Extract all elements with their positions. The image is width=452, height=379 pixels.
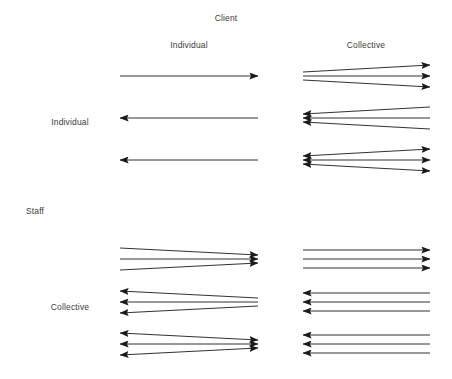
arrow-line (120, 348, 258, 355)
arrow-line (120, 291, 258, 298)
arrow-group-individual-collective-2 (303, 107, 430, 129)
arrow-line (303, 107, 430, 114)
arrow-group-individual-collective-1 (303, 65, 430, 87)
arrow-layer (0, 0, 452, 379)
arrow-group-collective-collective-3 (303, 335, 430, 353)
arrow-group-collective-individual-2 (120, 291, 258, 313)
arrow-line (303, 164, 430, 171)
arrow-line (120, 306, 258, 313)
interaction-matrix-diagram: Client Individual Collective Staff Indiv… (0, 0, 452, 379)
arrow-group-individual-collective-3 (303, 149, 430, 171)
arrow-group-collective-collective-1 (303, 250, 430, 268)
arrow-line (120, 263, 258, 270)
arrow-group-collective-collective-2 (303, 293, 430, 311)
arrow-group-collective-individual-1 (120, 248, 258, 270)
arrow-line (303, 149, 430, 156)
arrow-line (120, 333, 258, 340)
arrow-line (303, 122, 430, 129)
arrow-line (120, 248, 258, 255)
arrow-group-collective-individual-3 (120, 333, 258, 355)
arrow-line (303, 65, 430, 72)
arrow-line (303, 80, 430, 87)
